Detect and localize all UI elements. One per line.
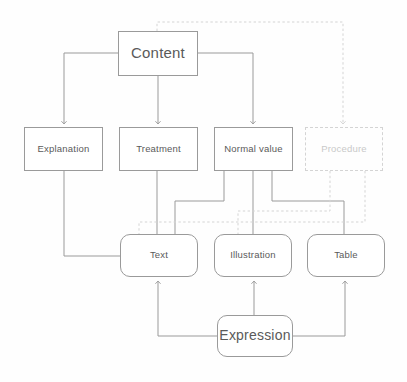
- node-content-label: Content: [131, 45, 185, 62]
- node-expression[interactable]: Expression: [217, 315, 293, 357]
- edge-content-to-normal-value: [198, 53, 253, 124]
- node-text-label: Text: [150, 250, 168, 260]
- edge-normal-value-to-table: [272, 171, 344, 234]
- node-normal-value-label: Normal value: [224, 144, 282, 154]
- node-content[interactable]: Content: [118, 31, 198, 76]
- edge-content-to-explanation: [64, 53, 118, 124]
- node-treatment-label: Treatment: [136, 144, 181, 154]
- diagram-canvas: Content Explanation Treatment Normal val…: [0, 0, 407, 382]
- node-illustration-label: Illustration: [230, 250, 276, 260]
- node-procedure-label: Procedure: [321, 144, 367, 154]
- node-explanation[interactable]: Explanation: [24, 127, 103, 171]
- node-illustration[interactable]: Illustration: [214, 234, 292, 277]
- node-table[interactable]: Table: [307, 234, 385, 277]
- node-table-label: Table: [334, 250, 358, 260]
- node-expression-label: Expression: [219, 328, 290, 343]
- edge-normal-value-to-text: [175, 171, 224, 234]
- node-procedure[interactable]: Procedure: [305, 127, 383, 171]
- edge-expression-to-table: [293, 281, 345, 336]
- edge-expression-to-text: [158, 281, 217, 336]
- edge-procedure-to-illustration: [238, 171, 330, 234]
- node-treatment[interactable]: Treatment: [119, 127, 198, 171]
- node-text[interactable]: Text: [120, 234, 198, 277]
- node-normal-value[interactable]: Normal value: [214, 127, 293, 171]
- edge-explanation-to-text: [64, 171, 120, 256]
- connector-layer: [0, 0, 407, 382]
- node-explanation-label: Explanation: [38, 144, 90, 154]
- edge-procedure-to-text: [139, 171, 365, 234]
